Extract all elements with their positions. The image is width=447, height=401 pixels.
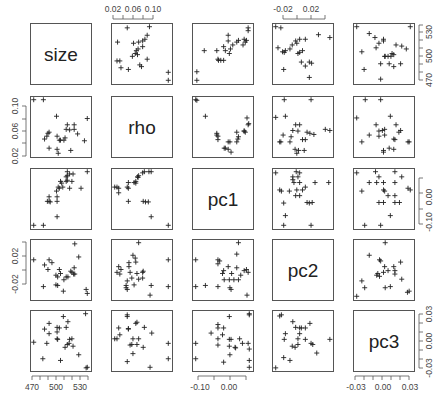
panel-frame xyxy=(31,97,92,158)
tick-label: 470 xyxy=(424,73,434,87)
panel-frame xyxy=(112,311,173,372)
tick-label: 0.02 xyxy=(10,147,20,164)
tick-label: -0.02 xyxy=(273,4,293,14)
tick-label: 0.06 xyxy=(10,122,20,139)
tick-label: 0.00 xyxy=(424,188,434,205)
tick-label: -0.02 xyxy=(10,274,20,294)
tick-label: 0.03 xyxy=(402,382,419,392)
tick-label: 0.00 xyxy=(375,382,392,392)
panel-frame xyxy=(354,169,415,230)
diagonal-label-pc1: pc1 xyxy=(208,189,239,210)
tick-label: 0.10 xyxy=(10,97,20,114)
tick-label: 0.06 xyxy=(125,4,142,14)
panel-frame xyxy=(354,24,415,85)
tick-label: -0.10 xyxy=(190,382,210,392)
diagonal-variable-labels: sizerhopc1pc2pc3 xyxy=(44,44,399,352)
tick-label: 0.00 xyxy=(424,332,434,349)
tick-label: 500 xyxy=(424,49,434,63)
tick-label: -0.03 xyxy=(424,358,434,378)
panel-frame xyxy=(193,24,254,85)
tick-label: 530 xyxy=(73,382,87,392)
diagonal-label-pc3: pc3 xyxy=(369,331,400,352)
tick-label: 0.03 xyxy=(424,305,434,322)
tick-label: 500 xyxy=(49,382,63,392)
panel-frame xyxy=(112,24,173,85)
tick-label: 470 xyxy=(25,382,39,392)
panel-frame xyxy=(112,169,173,230)
diagonal-label-pc2: pc2 xyxy=(288,260,319,281)
panel-frame xyxy=(354,240,415,301)
diagonal-label-rho: rho xyxy=(128,117,155,138)
tick-label: -0.03 xyxy=(346,382,366,392)
tick-label: -0.10 xyxy=(424,212,434,232)
panel-frame xyxy=(354,97,415,158)
scatterplot-matrix: sizerhopc1pc2pc3 0.020.060.10-0.020.0247… xyxy=(0,0,447,401)
panel-frame xyxy=(273,311,334,372)
tick-label: 0.00 xyxy=(221,382,238,392)
panel-frame xyxy=(273,169,334,230)
tick-label: 0.02 xyxy=(10,247,20,264)
tick-label: 0.02 xyxy=(303,4,320,14)
diagonal-label-size: size xyxy=(44,44,78,65)
tick-label: 0.02 xyxy=(105,4,122,14)
tick-label: 0.10 xyxy=(145,4,162,14)
panel-frame xyxy=(273,97,334,158)
tick-label: 530 xyxy=(424,25,434,39)
panel-frame xyxy=(31,311,92,372)
panel-frame xyxy=(273,24,334,85)
panel-frame xyxy=(31,169,92,230)
